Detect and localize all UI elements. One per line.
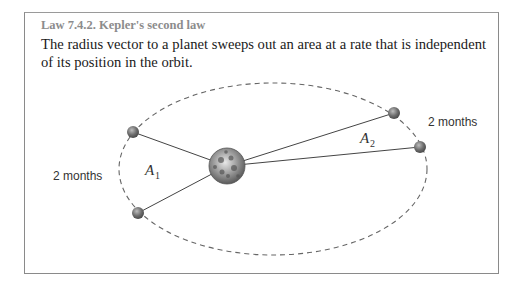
sun-icon	[209, 148, 245, 184]
radius-vectors	[133, 113, 420, 213]
area-1-label: A 1	[144, 162, 160, 181]
left-interval-label: 2 months	[53, 169, 102, 183]
planet-icon	[414, 141, 426, 153]
planet-icon	[127, 126, 139, 138]
area-2-subscript: 2	[370, 138, 375, 149]
orbit-ellipse	[119, 83, 427, 255]
area-1-subscript: 1	[155, 170, 160, 181]
area-2-label: A 2	[359, 130, 375, 149]
planet-icon	[132, 207, 144, 219]
area-1-symbol: A	[144, 162, 155, 178]
area-2-symbol: A	[359, 130, 370, 146]
planet-icon	[388, 107, 400, 119]
right-interval-label: 2 months	[428, 115, 477, 129]
kepler-diagram: 2 months 2 months A 1 A 2	[0, 0, 526, 289]
